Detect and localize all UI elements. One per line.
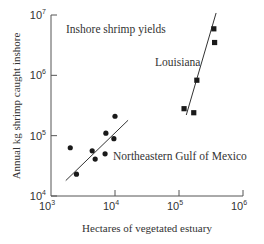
chart: 104105106107103104105106 Inshore shrimp … — [0, 0, 264, 244]
y-tick-label: 105 — [30, 129, 46, 142]
x-tick-label: 104 — [103, 199, 119, 212]
x-axis-label: Hectares of vegetated estuary — [82, 222, 212, 234]
data-point-northeastern-gulf-of-mexico — [68, 145, 73, 150]
chart-title: Inshore shrimp yields — [66, 23, 166, 36]
data-point-louisiana — [211, 26, 216, 31]
data-point-louisiana — [191, 110, 196, 115]
annotation-gulf: Northeastern Gulf of Mexico — [113, 150, 247, 162]
data-point-louisiana — [212, 40, 217, 45]
x-tick-label: 105 — [167, 199, 183, 212]
data-point-northeastern-gulf-of-mexico — [103, 131, 108, 136]
annotation-louisiana: Louisiana — [155, 56, 200, 68]
data-point-northeastern-gulf-of-mexico — [74, 172, 79, 177]
data-point-northeastern-gulf-of-mexico — [90, 148, 95, 153]
data-point-northeastern-gulf-of-mexico — [93, 156, 98, 161]
y-tick-label: 107 — [30, 8, 46, 21]
data-point-northeastern-gulf-of-mexico — [111, 136, 116, 141]
data-point-louisiana — [181, 106, 186, 111]
data-point-northeastern-gulf-of-mexico — [102, 151, 107, 156]
data-point-louisiana — [194, 78, 199, 83]
y-axis-label: Annual kg shrimp caught inshore — [10, 33, 22, 180]
data-point-northeastern-gulf-of-mexico — [112, 114, 117, 119]
y-tick-label: 106 — [30, 68, 46, 81]
x-tick-label: 103 — [39, 199, 55, 212]
ticks: 104105106107103104105106 — [30, 8, 247, 212]
x-tick-label: 106 — [231, 199, 247, 212]
